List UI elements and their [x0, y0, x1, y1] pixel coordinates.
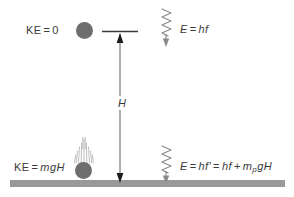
- energy-bottom-operator-2: =: [211, 160, 222, 172]
- energy-top-lhs: E: [180, 23, 188, 35]
- photon-wave-emitted-icon: [158, 8, 178, 48]
- ball-at-ground: [75, 162, 92, 179]
- photon-energy-top-label: E=hf: [180, 23, 209, 35]
- energy-bottom-term-2: hf: [222, 160, 232, 172]
- ke-top-lhs: KE: [26, 24, 41, 36]
- ke-bottom-lhs: KE: [14, 161, 29, 173]
- height-label: H: [115, 96, 129, 110]
- ground-surface: [10, 180, 285, 187]
- energy-bottom-operator-3: +: [232, 160, 243, 172]
- kinetic-energy-top-label: KE=0: [26, 24, 59, 36]
- ke-top-rhs: 0: [52, 24, 59, 36]
- ke-top-operator: =: [41, 24, 52, 36]
- energy-top-rhs: hf: [199, 23, 209, 35]
- ball-at-rest: [76, 22, 93, 39]
- ke-bottom-operator: =: [29, 161, 40, 173]
- energy-bottom-lhs: E: [180, 160, 188, 172]
- energy-bottom-term-1: hf': [199, 160, 211, 172]
- photon-wave-received-icon: [158, 145, 178, 185]
- kinetic-energy-bottom-label: KE=mgH: [14, 161, 65, 173]
- physics-diagram: KE=0 KE=mgH H: [0, 0, 294, 197]
- energy-bottom-term-3-base: m: [243, 160, 253, 172]
- energy-top-operator: =: [188, 23, 199, 35]
- ke-bottom-rhs: mgH: [40, 161, 64, 173]
- energy-bottom-term-3-tail: gH: [257, 160, 272, 172]
- photon-energy-bottom-label: E=hf'=hf+mpgH: [180, 160, 272, 174]
- energy-bottom-operator-1: =: [188, 160, 199, 172]
- falling-motion-streaks-icon: [72, 137, 96, 165]
